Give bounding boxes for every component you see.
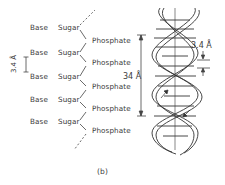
rise-label: 3.4 Å	[191, 42, 212, 50]
phosphate-label: Phosphate	[92, 105, 131, 112]
phosphate-label: Phosphate	[92, 83, 131, 90]
sugar-label: Sugar	[58, 49, 80, 56]
base-label: Base	[30, 118, 48, 125]
sugar-label: Sugar	[58, 118, 80, 125]
base-spacing-label: 3.4 Å	[10, 52, 18, 76]
double-helix	[152, 8, 202, 155]
pitch-label: 34 Å	[123, 73, 141, 81]
base-label: Base	[30, 24, 48, 31]
phosphate-label: Phosphate	[92, 37, 131, 44]
sugar-label: Sugar	[58, 73, 80, 80]
base-label: Base	[30, 96, 48, 103]
sugar-label: Sugar	[58, 24, 80, 31]
figure-caption: (b)	[97, 168, 108, 176]
rise-arrows	[197, 51, 210, 76]
chain-dashed-bottom	[74, 134, 86, 150]
chain-dashed-top	[80, 10, 95, 25]
phosphate-label: Phosphate	[92, 127, 131, 134]
base-spacing-marker	[24, 57, 29, 72]
phosphate-label: Phosphate	[92, 59, 131, 66]
sugar-label: Sugar	[58, 96, 80, 103]
base-label: Base	[30, 49, 48, 56]
base-label: Base	[30, 73, 48, 80]
